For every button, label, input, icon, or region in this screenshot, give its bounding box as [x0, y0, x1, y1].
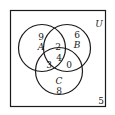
region-a-and-c: 3	[46, 60, 52, 70]
region-b-and-c: 0	[66, 60, 72, 70]
region-only-c: 8	[56, 86, 62, 96]
region-outside: 5	[98, 96, 104, 106]
set-b-label: B	[73, 40, 81, 50]
region-only-a: 9	[38, 32, 44, 42]
venn-diagram: U 9 A 6 B 2 4 3 0 C 8 5	[0, 0, 115, 115]
region-a-and-b: 2	[55, 42, 61, 52]
set-a-label: A	[37, 42, 45, 52]
region-only-b: 6	[74, 30, 80, 40]
set-c-label: C	[56, 76, 63, 86]
universe-label: U	[95, 19, 103, 29]
region-a-b-c: 4	[56, 53, 62, 63]
